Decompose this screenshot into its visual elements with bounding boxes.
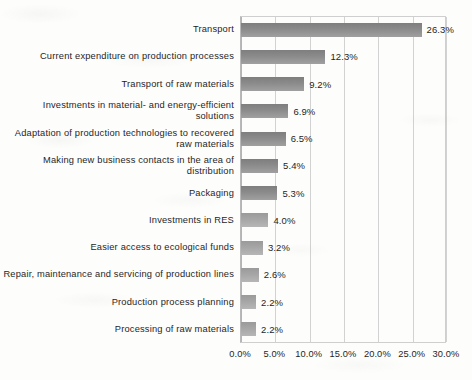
x-tick-label: 15.0% — [330, 348, 357, 360]
x-tick-label: 10.0% — [295, 348, 322, 360]
bar-row: Transport26.3% — [0, 16, 472, 43]
category-label: Easier access to ecological funds — [2, 242, 234, 253]
bar — [241, 23, 422, 37]
bar — [241, 186, 277, 200]
bar-row: Adaptation of production technologies to… — [0, 125, 472, 152]
value-label: 3.2% — [268, 242, 290, 253]
bar — [241, 241, 263, 255]
bar — [241, 213, 268, 227]
bar — [241, 295, 256, 309]
value-label: 2.2% — [261, 297, 283, 308]
bar-row: Production process planning2.2% — [0, 289, 472, 316]
bar-rows: Transport26.3%Current expenditure on pro… — [0, 16, 472, 343]
category-label: Production process planning — [2, 297, 234, 308]
category-label: Making new business contacts in the area… — [2, 155, 234, 177]
bar — [241, 132, 286, 146]
x-tick-label: 5.0% — [264, 348, 286, 360]
category-label: Transport of raw materials — [2, 79, 234, 90]
bar-row: Processing of raw materials2.2% — [0, 316, 472, 343]
value-label: 6.5% — [291, 133, 313, 144]
value-label: 26.3% — [427, 24, 454, 35]
category-label: Investments in RES — [2, 215, 234, 226]
bar-row: Current expenditure on production proces… — [0, 43, 472, 70]
category-label: Packaging — [2, 188, 234, 199]
x-tick-label: 20.0% — [364, 348, 391, 360]
category-label: Adaptation of production technologies to… — [2, 128, 234, 150]
category-label: Repair, maintenance and servicing of pro… — [2, 269, 234, 280]
category-label: Investments in material- and energy-effi… — [2, 100, 234, 122]
bar — [241, 159, 278, 173]
bar-row: Packaging5.3% — [0, 180, 472, 207]
x-tick-label: 25.0% — [398, 348, 425, 360]
category-label: Current expenditure on production proces… — [2, 51, 234, 62]
bar-row: Easier access to ecological funds3.2% — [0, 234, 472, 261]
value-label: 9.2% — [309, 79, 331, 90]
value-label: 2.2% — [261, 324, 283, 335]
x-axis: 0.0%5.0%10.0%15.0%20.0%25.0%30.0% — [0, 348, 472, 364]
bar — [241, 50, 325, 64]
x-tick-label: 0.0% — [229, 348, 251, 360]
bar — [241, 268, 259, 282]
value-label: 2.6% — [264, 269, 286, 280]
value-label: 12.3% — [330, 51, 357, 62]
category-label: Transport — [2, 24, 234, 35]
x-tick-label: 30.0% — [433, 348, 460, 360]
value-label: 4.0% — [273, 215, 295, 226]
chart-page: Transport26.3%Current expenditure on pro… — [0, 0, 472, 380]
bar — [241, 322, 256, 336]
bar-row: Repair, maintenance and servicing of pro… — [0, 261, 472, 288]
bar-row: Investments in RES4.0% — [0, 207, 472, 234]
category-label: Processing of raw materials — [2, 324, 234, 335]
bar — [241, 77, 304, 91]
bar — [241, 104, 288, 118]
value-label: 5.3% — [282, 188, 304, 199]
bar-row: Transport of raw materials9.2% — [0, 71, 472, 98]
value-label: 5.4% — [283, 160, 305, 171]
bar-row: Investments in material- and energy-effi… — [0, 98, 472, 125]
value-label: 6.9% — [293, 106, 315, 117]
bar-row: Making new business contacts in the area… — [0, 152, 472, 179]
